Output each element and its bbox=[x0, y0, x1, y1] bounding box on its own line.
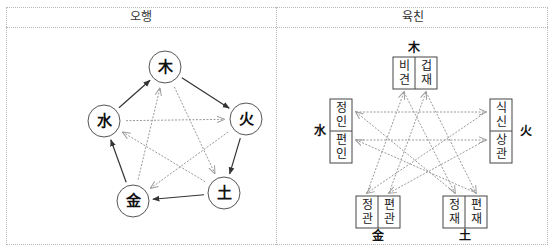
yukchin-group-wood: 비견겁재木 bbox=[393, 40, 437, 89]
diagram-canvas: 木火土金水 비견겁재木정관편관金정재편재土정인편인水식신상관火 bbox=[0, 0, 554, 250]
yukchin-element-label-metal: 金 bbox=[371, 228, 385, 243]
yukchin-arrow-metal-wood bbox=[367, 92, 404, 193]
generating-arrow-wood-fire bbox=[182, 78, 229, 108]
yukchin-term-char: 편 bbox=[471, 198, 482, 212]
yukchin-arrow-fire-metal bbox=[389, 140, 486, 193]
yukchin-group-earth: 정재편재土 bbox=[443, 196, 487, 243]
yukchin-arrow-wood-earth bbox=[404, 92, 455, 193]
yukchin-term-char: 관 bbox=[362, 212, 373, 226]
yukchin-term-char: 비 bbox=[399, 59, 410, 73]
generating-arrow-water-wood bbox=[119, 80, 150, 107]
node-label: 金 bbox=[125, 192, 142, 210]
yukchin-arrow-earth-water bbox=[356, 112, 455, 193]
yukchin-term-char: 관 bbox=[384, 212, 395, 226]
ohaeng-node-wood: 木 bbox=[149, 51, 181, 83]
ohaeng-node-earth: 土 bbox=[208, 177, 240, 209]
yukchin-group-fire: 식신상관火 bbox=[490, 99, 533, 163]
ohaeng-nodes: 木火土金水 bbox=[88, 51, 262, 217]
ohaeng-node-fire: 火 bbox=[230, 103, 262, 135]
yukchin-group-water: 정인편인水 bbox=[314, 99, 352, 163]
yukchin-term-char: 식 bbox=[496, 101, 507, 115]
yukchin-term-char: 재 bbox=[471, 212, 482, 226]
yukchin-arrow-metal-wood bbox=[389, 92, 426, 193]
generating-arrow-earth-metal bbox=[153, 195, 204, 199]
yukchin-term-char: 견 bbox=[399, 73, 410, 87]
yukchin-term-char: 정 bbox=[449, 198, 460, 212]
yukchin-group-metal: 정관편관金 bbox=[356, 196, 400, 243]
yukchin-term-char: 인 bbox=[336, 147, 347, 161]
generating-arrow-fire-earth bbox=[230, 138, 241, 174]
yukchin-element-label-fire: 火 bbox=[520, 124, 533, 138]
node-label: 木 bbox=[157, 58, 174, 76]
yukchin-arrow-earth-water bbox=[356, 140, 476, 193]
yukchin-term-char: 정 bbox=[336, 101, 347, 115]
ohaeng-node-water: 水 bbox=[88, 105, 120, 137]
yukchin-arrows bbox=[356, 92, 486, 193]
yukchin-term-char: 편 bbox=[336, 133, 347, 147]
controlling-arrow-water-fire bbox=[126, 119, 224, 120]
yukchin-term-char: 재 bbox=[449, 212, 460, 226]
yukchin-term-char: 상 bbox=[496, 133, 507, 147]
yukchin-term-char: 정 bbox=[362, 198, 373, 212]
controlling-arrow-wood-earth bbox=[174, 87, 214, 173]
yukchin-boxes: 비견겁재木정관편관金정재편재土정인편인水식신상관火 bbox=[314, 40, 533, 243]
yukchin-arrow-wood-earth bbox=[426, 92, 476, 193]
generating-arrow-metal-water bbox=[111, 140, 126, 182]
yukchin-element-label-wood: 木 bbox=[407, 40, 421, 55]
yukchin-element-label-earth: 土 bbox=[459, 228, 471, 243]
ohaeng-node-metal: 金 bbox=[117, 185, 149, 217]
yukchin-term-char: 인 bbox=[336, 115, 347, 129]
node-label: 水 bbox=[97, 112, 113, 130]
yukchin-term-char: 편 bbox=[384, 198, 395, 212]
yukchin-term-char: 겁 bbox=[421, 59, 432, 73]
yukchin-term-char: 재 bbox=[421, 73, 432, 87]
yukchin-element-label-water: 水 bbox=[314, 123, 327, 138]
controlling-arrow-metal-wood bbox=[138, 88, 160, 179]
node-label: 土 bbox=[217, 184, 232, 202]
node-label: 火 bbox=[239, 110, 255, 128]
yukchin-term-char: 신 bbox=[496, 115, 507, 129]
yukchin-term-char: 관 bbox=[496, 147, 507, 161]
